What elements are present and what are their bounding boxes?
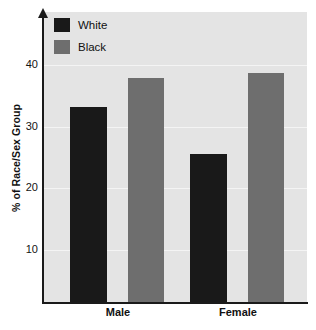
bar-chart: 40 30 20 10 % of Race/Sex Group Male Fem… xyxy=(0,0,316,330)
y-axis-title: % of Race/Sex Group xyxy=(10,78,22,238)
y-tick-label-10: 10 xyxy=(0,244,44,255)
bar-male-white xyxy=(70,107,107,302)
gridline-40 xyxy=(44,65,307,66)
bar-female-white xyxy=(190,154,227,302)
y-axis-ticks: 40 30 20 10 xyxy=(0,0,44,330)
legend-label-black: Black xyxy=(78,41,106,53)
legend-item-white: White xyxy=(54,16,107,34)
x-label-male: Male xyxy=(60,306,176,318)
x-label-female: Female xyxy=(178,306,298,318)
y-tick-label-40: 40 xyxy=(0,59,44,70)
legend-label-white: White xyxy=(78,19,107,31)
legend-swatch-icon-white xyxy=(54,18,70,32)
x-axis-labels: Male Female xyxy=(44,306,307,328)
y-tick-label-20: 20 xyxy=(0,182,44,193)
legend: White Black xyxy=(54,16,107,60)
bar-female-black xyxy=(248,73,284,302)
bar-male-black xyxy=(128,78,164,302)
legend-swatch-icon-black xyxy=(54,40,70,54)
y-tick-label-30: 30 xyxy=(0,121,44,132)
legend-item-black: Black xyxy=(54,38,107,56)
x-axis-line xyxy=(42,302,308,304)
